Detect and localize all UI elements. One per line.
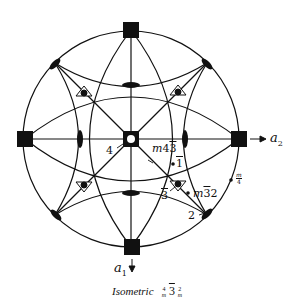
m32-point-marker (186, 191, 190, 195)
caption-3bar: 3 (169, 284, 175, 298)
label-twofold: 2 (188, 210, 195, 221)
stereographic-projection-diagram: a2 a1 4 m43 1 3 m32 2 m 4 Isometric 4m 3… (0, 0, 294, 303)
twofold-axis-inner-top (122, 82, 140, 88)
inversion-center-marker (127, 135, 135, 143)
caption-frac-c: 2m (178, 286, 182, 298)
twofold-axis-rim-lower-left (49, 208, 63, 222)
label-one-bar: 1 (176, 158, 183, 169)
m-over-4-point-marker (229, 178, 233, 182)
projection-svg (0, 0, 294, 303)
caption-frac-a: 4m (162, 286, 166, 298)
leader-three-bar (170, 187, 175, 191)
inversion-point-marker (171, 162, 175, 166)
label-m43bar: m43 (152, 143, 176, 154)
label-m-over-4: m 4 (236, 172, 242, 185)
fourfold-axis-left (17, 131, 33, 147)
twofold-axis-inner-right (182, 130, 188, 148)
twofold-axis-inner-bottom (122, 190, 140, 196)
twofold-axis-rim-upper-left (48, 57, 62, 71)
label-m3bar2: m32 (193, 188, 217, 199)
axis-label-a1: a1 (114, 261, 127, 278)
label-three-bar: 3 (161, 190, 168, 201)
axis-label-a2: a2 (270, 131, 283, 148)
twofold-axis-inner-left (77, 130, 83, 148)
figure-caption: Isometric 4m 3 2m (0, 284, 294, 299)
label-fourfold: 4 (106, 145, 113, 156)
fourfold-axis-top (123, 22, 139, 38)
fourfold-axis-right (231, 131, 247, 147)
a1-arrow-head (129, 266, 135, 272)
fourfold-axis-bottom (124, 239, 140, 255)
threefold-axis-upper-left (76, 86, 92, 96)
a2-arrow-head (260, 136, 266, 142)
twofold-axis-rim-upper-right (200, 57, 214, 71)
caption-system: Isometric (112, 285, 154, 297)
threefold-axis-lower-left (76, 182, 92, 192)
